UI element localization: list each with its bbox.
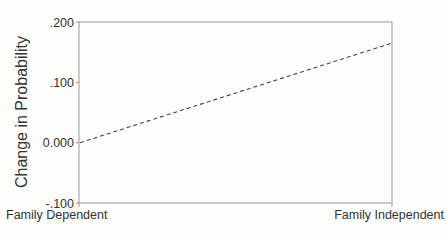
x-category-label-family-independent: Family Independent xyxy=(334,208,444,222)
plot-frame xyxy=(79,22,392,203)
y-tick-label: .100 xyxy=(50,76,74,90)
x-category-label-family-dependent: Family Dependent xyxy=(6,208,108,222)
line-chart: .200.1000.000-.100 Change in Probability… xyxy=(0,0,447,239)
series-line-dashed xyxy=(80,43,392,143)
y-axis-ticks: .200.1000.000-.100 xyxy=(43,16,79,211)
y-tick-label: .200 xyxy=(50,16,74,30)
y-tick-label: 0.000 xyxy=(43,136,74,150)
y-axis-title: Change in Probability xyxy=(13,36,30,188)
